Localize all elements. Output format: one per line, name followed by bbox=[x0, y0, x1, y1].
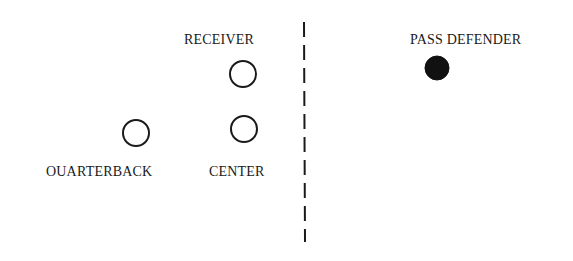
pass-defender-label: PASS DEFENDER bbox=[410, 33, 521, 47]
pass-defender-marker-icon bbox=[425, 56, 449, 80]
receiver-label: RECEIVER bbox=[184, 33, 254, 47]
receiver-marker-icon bbox=[230, 61, 256, 87]
center-marker-icon bbox=[231, 116, 257, 142]
quarterback-marker-icon bbox=[123, 120, 149, 146]
quarterback-label: OUARTERBACK bbox=[46, 165, 152, 179]
center-label: CENTER bbox=[209, 165, 265, 179]
football-play-diagram: RECEIVER OUARTERBACK CENTER PASS DEFENDE… bbox=[0, 0, 573, 261]
line-of-scrimmage bbox=[304, 22, 305, 242]
